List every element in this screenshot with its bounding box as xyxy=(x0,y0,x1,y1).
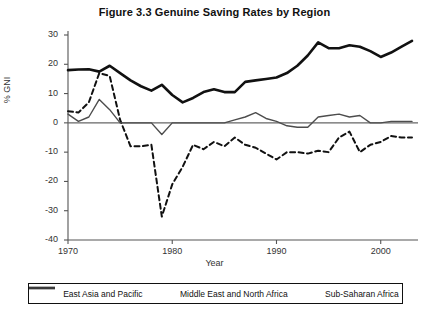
legend-item: Middle East and North Africa xyxy=(149,289,288,299)
legend-label: East Asia and Pacific xyxy=(63,289,142,299)
series-line-sub-saharan-africa xyxy=(68,99,412,134)
figure-container: Figure 3.3 Genuine Saving Rates by Regio… xyxy=(0,0,429,315)
legend-label: Sub-Saharan Africa xyxy=(325,289,399,299)
legend-swatch-sub-saharan-africa xyxy=(294,290,320,298)
series-line-east-asia-and-pacific xyxy=(68,41,412,102)
series-line-middle-east-and-north-africa xyxy=(68,73,412,217)
plot-area xyxy=(0,0,429,315)
legend-label: Middle East and North Africa xyxy=(180,289,288,299)
legend-item: Sub-Saharan Africa xyxy=(294,289,399,299)
legend-swatch-middle-east-and-north-africa xyxy=(149,290,175,298)
chart-legend: East Asia and Pacific Middle East and No… xyxy=(28,283,403,304)
